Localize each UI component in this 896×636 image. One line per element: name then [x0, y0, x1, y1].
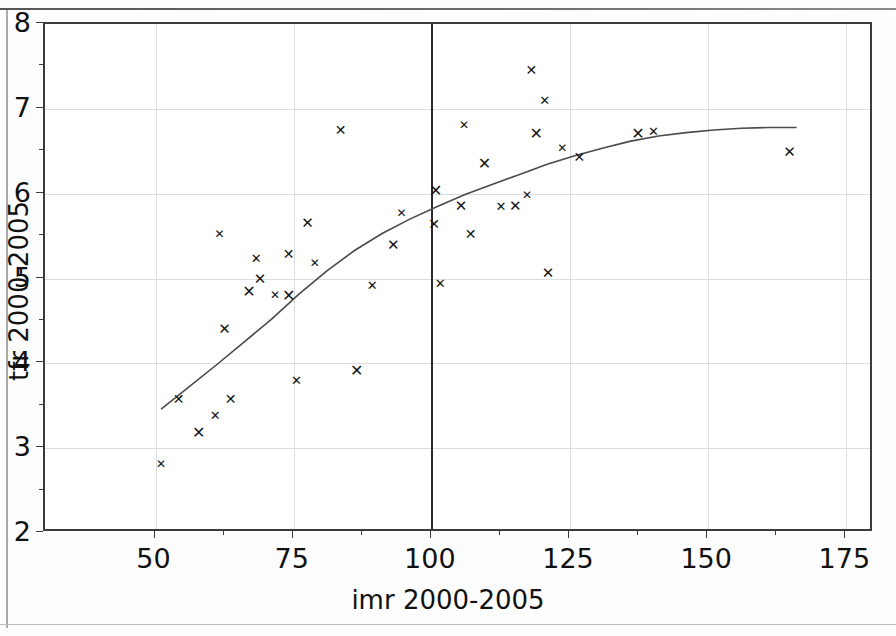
data-point: ✕ — [465, 227, 477, 241]
y-tick-8 — [36, 22, 43, 23]
y-minor-tick-5.5 — [39, 234, 43, 235]
data-point: ✕ — [218, 322, 231, 337]
data-point: ✕ — [648, 124, 659, 137]
data-point: ✕ — [396, 207, 406, 219]
data-point: ✕ — [429, 183, 442, 199]
data-point: ✕ — [291, 374, 302, 387]
data-point: ✕ — [542, 266, 555, 281]
lowess-fit-curve — [45, 24, 874, 533]
x-tick-150 — [706, 531, 707, 538]
x-tick-175 — [844, 531, 845, 538]
y-tick-2 — [36, 531, 43, 532]
y-tick-4 — [36, 361, 43, 362]
data-point: ✕ — [539, 93, 550, 106]
data-point: ✕ — [428, 217, 440, 231]
data-point: ✕ — [459, 119, 469, 131]
data-point: ✕ — [367, 279, 378, 292]
y-tick-label-2: 2 — [0, 516, 31, 547]
y-minor-tick-3.5 — [39, 404, 43, 405]
x-tick-label-175: 175 — [819, 543, 871, 574]
data-point: ✕ — [387, 238, 400, 253]
y-minor-tick-7.5 — [39, 64, 43, 65]
x-tick-75 — [292, 531, 293, 538]
x-minor-tick-87.5 — [361, 531, 362, 535]
y-tick-7 — [36, 107, 43, 108]
data-point: ✕ — [522, 189, 532, 201]
data-point: ✕ — [557, 142, 567, 154]
x-minor-tick-162.5 — [775, 531, 776, 535]
y-tick-6 — [36, 192, 43, 193]
x-minor-tick-112.5 — [499, 531, 500, 535]
y-tick-3 — [36, 446, 43, 447]
data-point: ✕ — [310, 257, 320, 269]
y-axis-title: tfr 2000-2005 — [4, 76, 34, 506]
data-point: ✕ — [783, 145, 796, 160]
data-point: ✕ — [509, 199, 522, 214]
data-point: ✕ — [283, 247, 295, 261]
data-point: ✕ — [574, 150, 586, 164]
data-point: ✕ — [435, 276, 446, 289]
data-point: ✕ — [173, 392, 185, 406]
data-point: ✕ — [335, 123, 347, 137]
data-point: ✕ — [215, 228, 225, 240]
x-tick-125 — [568, 531, 569, 538]
y-tick-5 — [36, 277, 43, 278]
y-minor-tick-6.5 — [39, 149, 43, 150]
x-axis-title: imr 2000-2005 — [0, 585, 896, 615]
data-point: ✕ — [530, 126, 543, 142]
data-point: ✕ — [282, 288, 295, 304]
data-point: ✕ — [192, 425, 205, 441]
scatter-plot-figure: ✕✕✕✕✕✕✕✕✕✕✕✕✕✕✕✕✕✕✕✕✕✕✕✕✕✕✕✕✕✕✕✕✕✕✕✕✕✕✕✕… — [0, 0, 896, 636]
data-point: ✕ — [254, 271, 267, 286]
x-tick-label-75: 75 — [275, 543, 309, 574]
data-point: ✕ — [525, 63, 537, 77]
data-point: ✕ — [251, 252, 262, 265]
x-tick-100 — [430, 531, 431, 538]
data-point: ✕ — [301, 215, 314, 230]
data-point: ✕ — [270, 289, 280, 301]
x-tick-label-100: 100 — [404, 543, 456, 574]
y-minor-tick-2.5 — [39, 489, 43, 490]
data-point: ✕ — [210, 409, 221, 422]
x-tick-label-125: 125 — [542, 543, 594, 574]
page-edge-top-rule — [0, 8, 896, 10]
y-minor-tick-4.5 — [39, 319, 43, 320]
data-point: ✕ — [225, 392, 237, 406]
x-tick-label-50: 50 — [136, 543, 170, 574]
data-point: ✕ — [631, 126, 644, 142]
page-edge-bottom-rule — [0, 624, 896, 625]
data-point: ✕ — [478, 156, 491, 172]
data-point: ✕ — [495, 200, 506, 213]
x-tick-50 — [154, 531, 155, 538]
data-point: ✕ — [156, 458, 166, 470]
data-point: ✕ — [455, 198, 468, 213]
x-tick-label-150: 150 — [680, 543, 732, 574]
data-point: ✕ — [350, 363, 363, 379]
y-tick-label-8: 8 — [0, 7, 31, 38]
x-minor-tick-62.5 — [223, 531, 224, 535]
x-minor-tick-137.5 — [637, 531, 638, 535]
plot-area: ✕✕✕✕✕✕✕✕✕✕✕✕✕✕✕✕✕✕✕✕✕✕✕✕✕✕✕✕✕✕✕✕✕✕✕✕✕✕✕✕ — [43, 22, 872, 531]
